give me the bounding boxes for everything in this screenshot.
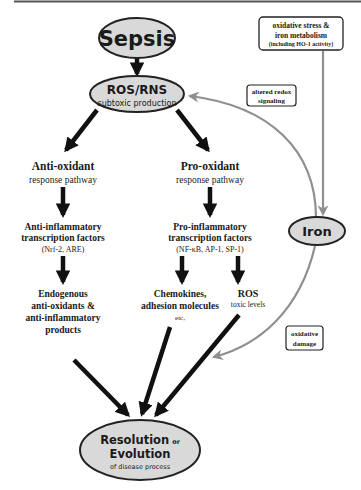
node-sepsis: Sepsis <box>99 18 176 58</box>
arrow-endogenous-to-resolution <box>74 360 128 415</box>
antioxidant-sub: response pathway <box>29 175 97 185</box>
box-oxidative-stress: oxidative stress & iron metabolism (incl… <box>259 17 343 50</box>
chemokines-line3: etc, <box>175 314 185 322</box>
arrow-ros-to-antioxidant <box>66 110 97 150</box>
endogenous-line4: products <box>45 325 81 335</box>
ros-rns-title: ROS/RNS <box>107 83 167 97</box>
oxstress-line1: oxidative stress & <box>273 21 330 30</box>
ros-toxic-sub: toxic levels <box>231 300 265 309</box>
anti-inflam-tf-examples: (Nrf-2, ARE) <box>42 245 85 254</box>
arrow-ros-to-prooxidant <box>177 110 208 150</box>
chemokines-line1: Chemokines, <box>154 289 207 299</box>
svg-text:Resolutionor: Resolutionor <box>100 433 181 447</box>
altered-redox-line1: altered redox <box>252 88 292 96</box>
resolution-or: or <box>172 438 180 446</box>
anti-inflam-tf-line2: transcription factors <box>21 233 105 243</box>
box-oxidative-damage: oxidative damage <box>286 326 323 350</box>
prooxidant-title: Pro-oxidant <box>181 160 240 172</box>
resolution-of-disease: of disease process <box>110 463 171 471</box>
chemokines-line2: adhesion molecules <box>141 301 219 311</box>
oxstress-line2: iron metabolism <box>275 31 328 40</box>
oxdamage-line1: oxidative <box>291 330 318 338</box>
endogenous-line3: anti-inflammatory <box>26 313 101 323</box>
oxdamage-line2: damage <box>293 340 316 348</box>
node-ros-rns: ROS/RNS subtoxic production <box>90 76 184 112</box>
sepsis-label: Sepsis <box>99 27 176 51</box>
endogenous-line1: Endogenous <box>38 289 88 299</box>
altered-redox-line2: signaling <box>258 97 285 105</box>
right-branch: Pro-oxidant response pathway Pro-inflamm… <box>141 160 265 322</box>
iron-label: Iron <box>302 224 331 239</box>
oxstress-line3: (including HO-1 activity) <box>269 41 333 48</box>
antioxidant-title: Anti-oxidant <box>32 160 95 172</box>
pro-inflam-tf-line1: Pro-inflammatory <box>173 222 247 232</box>
box-altered-redox: altered redox signaling <box>247 85 296 106</box>
left-branch: Anti-oxidant response pathway Anti-infla… <box>21 160 105 335</box>
resolution-main: Resolution <box>100 433 169 447</box>
pro-inflam-tf-examples: (NF-κB, AP-1, SP-1) <box>176 245 244 254</box>
prooxidant-sub: response pathway <box>176 175 244 185</box>
pro-inflam-tf-line2: transcription factors <box>168 233 252 243</box>
sepsis-redox-diagram: Sepsis ROS/RNS subtoxic production oxida… <box>0 0 361 490</box>
resolution-evolution: Evolution <box>110 447 171 461</box>
node-iron: Iron <box>289 217 345 245</box>
anti-inflam-tf-line1: Anti-inflammatory <box>24 222 101 232</box>
ros-rns-subtitle: subtoxic production <box>98 99 177 108</box>
endogenous-line2: anti-oxidants & <box>31 301 95 311</box>
node-resolution: Resolutionor Evolution of disease proces… <box>80 420 200 480</box>
ros-toxic-title: ROS <box>238 288 259 299</box>
